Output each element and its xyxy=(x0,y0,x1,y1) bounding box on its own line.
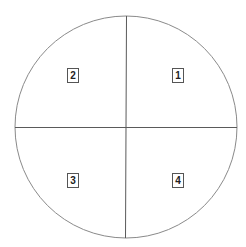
quadrant-label-4: 4 xyxy=(172,173,184,188)
quadrant-label-2: 2 xyxy=(67,68,79,83)
quadrant-label-1: 1 xyxy=(172,68,184,83)
quadrant-diagram xyxy=(0,0,246,247)
quadrant-label-3: 3 xyxy=(67,173,79,188)
